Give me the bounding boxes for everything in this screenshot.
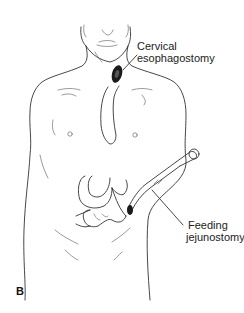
panel-letter: B — [16, 285, 24, 297]
jejunostomy-leader-line — [152, 190, 183, 225]
cervical-label-line-1: Cervical — [137, 40, 215, 52]
jejunostomy-stoma-icon — [127, 205, 133, 215]
cervical-label-line-2: esophagostomy — [137, 52, 215, 64]
cervical-esophagostomy — [101, 64, 124, 144]
intestines — [76, 176, 127, 227]
jejunostomy-label-line-1: Feeding — [186, 219, 244, 231]
cervical-leader-line — [123, 55, 137, 70]
tube-connector-icon — [189, 149, 199, 159]
head — [81, 25, 131, 62]
feeding-tube — [127, 149, 199, 215]
jejunostomy-label-line-2: jejunostomy — [186, 231, 244, 243]
jejunostomy-label: Feeding jejunostomy — [186, 219, 244, 243]
cervical-label: Cervical esophagostomy — [137, 40, 215, 64]
